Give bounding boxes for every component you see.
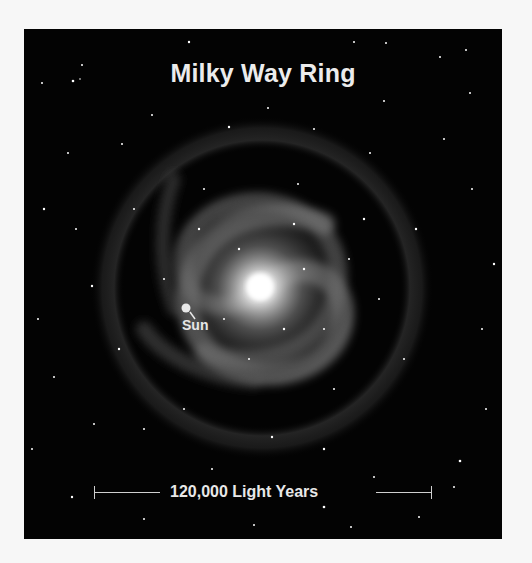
scale-bar-right-tick — [431, 486, 432, 499]
scale-label: 120,000 Light Years — [170, 483, 318, 501]
scale-bar: 120,000 Light Years — [94, 483, 432, 503]
galaxy-illustration-panel: Milky Way Ring Sun 120,000 Light Years — [24, 29, 502, 539]
galaxy-graphic — [24, 29, 502, 539]
scale-bar-left-line — [94, 492, 160, 493]
scale-bar-right-line — [376, 492, 432, 493]
sun-label: Sun — [182, 317, 208, 333]
diagram-title: Milky Way Ring — [24, 59, 502, 88]
